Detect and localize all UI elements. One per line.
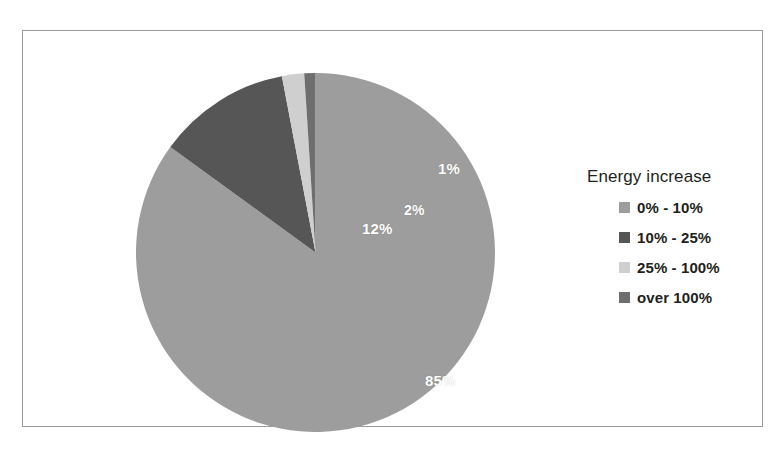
legend-swatch-icon xyxy=(619,262,630,273)
legend-swatch-icon xyxy=(619,292,630,303)
legend-item[interactable]: 10% - 25% xyxy=(587,227,753,248)
pie-slice-label-10-25: 12% xyxy=(362,221,393,236)
pie-slice-label-over-100: 1% xyxy=(438,161,460,176)
legend-item-label: 0% - 10% xyxy=(637,199,703,216)
legend-item[interactable]: 0% - 10% xyxy=(587,197,753,218)
pie-slice-label-0-10: 85% xyxy=(425,373,456,388)
legend-item-label: 25% - 100% xyxy=(637,259,720,276)
pie-chart: 85% 12% 2% 1% xyxy=(136,73,495,432)
legend-item-label: over 100% xyxy=(637,289,712,306)
legend-item-label: 10% - 25% xyxy=(637,229,711,246)
chart-frame: 85% 12% 2% 1% Energy increase 0% - 10%10… xyxy=(22,30,763,427)
legend-title: Energy increase xyxy=(587,167,753,187)
legend-swatch-icon xyxy=(619,232,630,243)
legend-swatch-icon xyxy=(619,202,630,213)
legend-item-list: 0% - 10%10% - 25%25% - 100%over 100% xyxy=(587,197,753,308)
pie-slice-label-25-100: 2% xyxy=(404,203,425,217)
legend: Energy increase 0% - 10%10% - 25%25% - 1… xyxy=(587,167,753,317)
legend-item[interactable]: 25% - 100% xyxy=(587,257,753,278)
legend-item[interactable]: over 100% xyxy=(587,287,753,308)
